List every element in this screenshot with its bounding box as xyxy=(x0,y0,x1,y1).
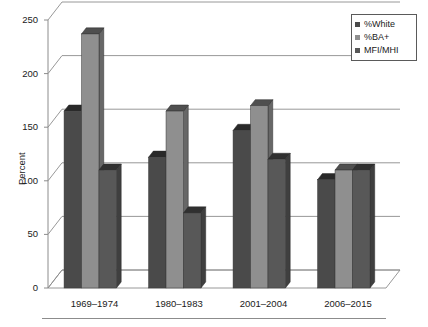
legend-label-white: %White xyxy=(364,20,395,29)
y-tick-label: 200 xyxy=(12,68,38,79)
legend-item-ba: %BA+ xyxy=(355,31,412,44)
x-tick-label: 1969–1974 xyxy=(54,298,134,309)
x-tick-label: 1980–1983 xyxy=(139,298,219,309)
legend-swatch-mfi xyxy=(355,48,360,53)
bars-group xyxy=(64,28,375,288)
footer-divider xyxy=(42,318,386,319)
y-tick-label: 0 xyxy=(12,282,38,293)
y-tick-label: 150 xyxy=(12,121,38,132)
legend-item-white: %White xyxy=(355,18,412,31)
legend-label-ba: %BA+ xyxy=(364,33,389,42)
x-tick-label: 2001–2004 xyxy=(223,298,303,309)
legend-swatch-ba xyxy=(355,35,360,40)
y-tick-label: 50 xyxy=(12,228,38,239)
y-axis-title: Percent xyxy=(16,152,27,185)
bar xyxy=(352,164,374,288)
bar xyxy=(183,207,205,288)
y-tick-label: 250 xyxy=(12,14,38,25)
legend-swatch-white xyxy=(355,22,360,27)
x-tick-label: 2006–2015 xyxy=(308,298,388,309)
bar xyxy=(268,153,290,288)
legend-label-mfi: MFI/MHI xyxy=(364,46,399,55)
bar xyxy=(99,164,121,288)
bar-chart: 050100150200250 Percent 1969–19741980–19… xyxy=(0,0,428,327)
legend-item-mfi: MFI/MHI xyxy=(355,44,412,57)
axis-lines-group xyxy=(44,20,48,288)
chart-legend: %White %BA+ MFI/MHI xyxy=(351,14,417,61)
